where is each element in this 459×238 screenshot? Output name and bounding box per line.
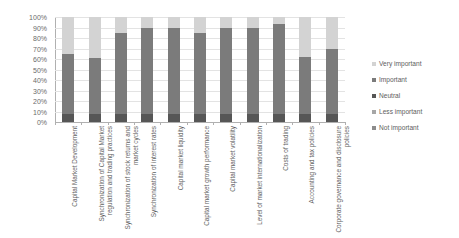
bar-segment xyxy=(141,28,153,114)
stacked-bar[interactable] xyxy=(62,17,74,122)
bar-segment xyxy=(326,114,338,122)
stacked-bar[interactable] xyxy=(115,17,127,122)
y-tick-label: 50% xyxy=(33,66,47,73)
bar-segment xyxy=(220,17,232,28)
bar-segment xyxy=(247,114,259,122)
legend-item-label: Very important xyxy=(379,60,422,68)
bar-segment xyxy=(62,17,74,54)
y-tick-label: 30% xyxy=(33,87,47,94)
legend-item[interactable]: Not important xyxy=(372,120,459,136)
bar-segment xyxy=(273,17,285,24)
x-tick xyxy=(292,122,293,125)
bar-slot xyxy=(89,17,101,122)
bar-segment xyxy=(273,24,285,113)
bar-segment xyxy=(89,58,101,114)
x-category-label-text: Costs of trading xyxy=(282,126,290,234)
bar-segment xyxy=(273,114,285,122)
legend-item[interactable]: Important xyxy=(372,72,459,88)
x-category-label: Capital market growth performance xyxy=(203,126,211,234)
bar-segment xyxy=(220,28,232,114)
x-axis-category-labels: Capital Market DevelopmentSynchronizatio… xyxy=(55,126,345,238)
x-tick xyxy=(187,122,188,125)
stacked-bar[interactable] xyxy=(168,17,180,122)
stacked-bar[interactable] xyxy=(89,17,101,122)
x-category-label: Synchronization of interest rates xyxy=(150,126,158,234)
legend-item-label: Important xyxy=(379,76,407,84)
bar-slot xyxy=(326,17,338,122)
bar-segment xyxy=(220,114,232,122)
bar-slot xyxy=(141,17,153,122)
x-category-label-text: Capital market liquidity xyxy=(177,126,185,234)
stacked-bar[interactable] xyxy=(194,17,206,122)
x-category-label-text: Synchronization of interest rates xyxy=(150,126,158,234)
y-tick-label: 0% xyxy=(37,119,47,126)
x-category-label-text: Accounting and tax policies xyxy=(308,126,316,234)
y-tick-label: 60% xyxy=(33,56,47,63)
bar-segment xyxy=(194,114,206,122)
y-tick-label: 80% xyxy=(33,35,47,42)
bar-segment xyxy=(326,49,338,114)
legend-item[interactable]: Neutral xyxy=(372,88,459,104)
x-category-label-text: Capital market growth performance xyxy=(203,126,211,234)
bar-segment xyxy=(141,114,153,122)
legend-item-label: Not important xyxy=(379,124,419,132)
bar-segment xyxy=(115,114,127,122)
x-tick xyxy=(160,122,161,125)
x-category-label-text: Synchronization of Capital Market regula… xyxy=(98,126,113,234)
legend-swatch-icon xyxy=(372,78,376,82)
x-category-label: Synchronization of stock returns and mar… xyxy=(124,126,139,234)
bar-segment xyxy=(62,114,74,122)
legend-item-label: Less important xyxy=(379,108,422,116)
x-category-label: Accounting and tax policies xyxy=(308,126,316,234)
y-tick-label: 10% xyxy=(33,108,47,115)
stacked-bar[interactable] xyxy=(273,17,285,122)
bar-slot xyxy=(273,17,285,122)
bar-slot xyxy=(220,17,232,122)
x-tick xyxy=(345,122,346,125)
y-tick-label: 20% xyxy=(33,98,47,105)
bar-slot xyxy=(168,17,180,122)
chart-legend: Very importantImportantNeutralLess impor… xyxy=(372,56,459,136)
bar-segment xyxy=(299,17,311,57)
bar-segment xyxy=(299,57,311,114)
bar-segment xyxy=(89,17,101,58)
bar-slot xyxy=(299,17,311,122)
bar-segment xyxy=(89,114,101,122)
stacked-bar[interactable] xyxy=(247,17,259,122)
x-category-label: Capital market volatility xyxy=(229,126,237,234)
stacked-bar[interactable] xyxy=(326,17,338,122)
y-tick-label: 90% xyxy=(33,24,47,31)
stacked-bar[interactable] xyxy=(141,17,153,122)
x-category-label-text: Synchronization of stock returns and mar… xyxy=(124,126,139,234)
legend-swatch-icon xyxy=(372,126,376,130)
x-category-label: Capital market liquidity xyxy=(177,126,185,234)
bar-segment xyxy=(247,28,259,114)
bar-segment xyxy=(62,54,74,114)
x-tick xyxy=(319,122,320,125)
x-tick xyxy=(240,122,241,125)
x-tick xyxy=(55,122,56,125)
bar-segment xyxy=(299,114,311,122)
x-tick xyxy=(134,122,135,125)
legend-item[interactable]: Less important xyxy=(372,104,459,120)
stacked-bar[interactable] xyxy=(299,17,311,122)
y-tick-label: 70% xyxy=(33,45,47,52)
bar-segment xyxy=(194,17,206,33)
x-category-label: Capital Market Development xyxy=(71,126,79,234)
bar-segment xyxy=(194,33,206,114)
legend-swatch-icon xyxy=(372,62,376,66)
x-tick xyxy=(213,122,214,125)
bar-slot xyxy=(194,17,206,122)
x-category-label: Synchronization of Capital Market regula… xyxy=(98,126,113,234)
legend-item[interactable]: Very important xyxy=(372,56,459,72)
legend-item-label: Neutral xyxy=(379,92,400,100)
bar-segment xyxy=(326,17,338,49)
x-category-label-text: Capital market volatility xyxy=(229,126,237,234)
x-category-label-text: Capital Market Development xyxy=(71,126,79,234)
x-tick xyxy=(266,122,267,125)
stacked-bar[interactable] xyxy=(220,17,232,122)
plot-area xyxy=(55,17,345,122)
x-category-label-text: Level of market internationalization xyxy=(256,126,264,234)
bar-segment xyxy=(168,114,180,122)
bar-segment xyxy=(115,17,127,33)
